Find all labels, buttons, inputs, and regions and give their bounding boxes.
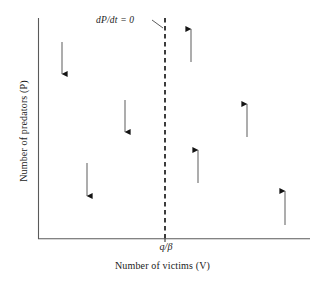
annotation-leader-line [152,20,163,28]
x-axis-title: Number of victims (V) [0,260,325,271]
phase-plane-figure: dP/dt = 0 q/β Number of victims (V) Numb… [0,0,325,284]
x-axis-tick-label: q/β [146,241,186,252]
nullcline-annotation-label: dP/dt = 0 [96,15,134,25]
y-axis-title-wrapper: Number of predators (P) [13,21,31,241]
y-axis-title: Number of predators (P) [18,80,29,181]
